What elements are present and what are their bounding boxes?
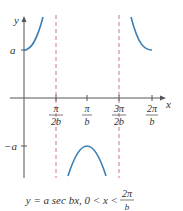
- x-axis-label: x: [165, 98, 171, 110]
- svg-text:2b: 2b: [51, 116, 61, 127]
- caption-frac-num: 2π: [122, 188, 133, 199]
- svg-text:2b: 2b: [114, 116, 124, 127]
- y-tick-label-a: a: [10, 44, 16, 56]
- curve-branch-1: [24, 17, 43, 50]
- svg-text:2π: 2π: [147, 103, 158, 114]
- caption-text: y = a sec bx, 0 < x <: [25, 194, 118, 206]
- caption: y = a sec bx, 0 < x < 2π b: [25, 188, 134, 211]
- caption-frac-den: b: [125, 202, 130, 211]
- svg-text:π: π: [84, 103, 90, 114]
- curve-branch-2: [68, 146, 106, 176]
- y-tick-label-neg-a: −a: [4, 140, 17, 152]
- x-tick-label-2pi-over-b: 2π b: [146, 103, 158, 127]
- y-axis-arrow-icon: [22, 16, 27, 22]
- x-tick-label-3pi-over-2b: 3π 2b: [112, 103, 126, 127]
- svg-text:b: b: [85, 116, 90, 127]
- x-tick-label-pi-over-2b: π 2b: [49, 103, 63, 127]
- svg-text:π: π: [53, 103, 59, 114]
- secant-graph: y x a −a π 2b π b 3π 2b 2π b y = a sec b…: [0, 0, 183, 211]
- svg-text:b: b: [150, 116, 155, 127]
- x-tick-label-pi-over-b: π b: [82, 103, 92, 127]
- y-axis-label: y: [13, 14, 19, 26]
- svg-text:3π: 3π: [113, 103, 125, 114]
- curve-branch-3: [131, 17, 152, 50]
